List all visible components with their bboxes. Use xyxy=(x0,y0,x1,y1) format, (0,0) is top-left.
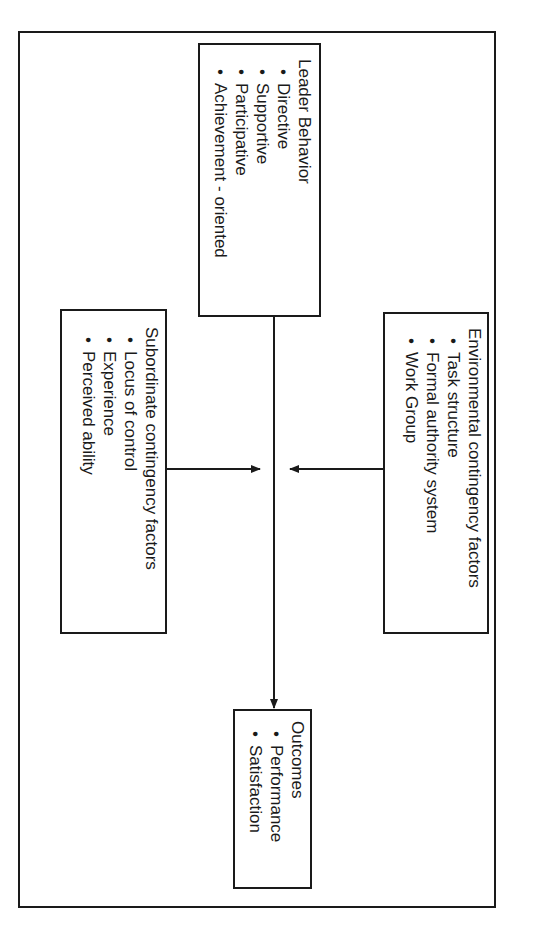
environmental-factors-box: Environmental contingency factors Task s… xyxy=(383,312,489,634)
leader-behavior-box: Leader Behavior Directive Supportive Par… xyxy=(198,43,321,317)
environmental-factors-title: Environmental contingency factors xyxy=(464,328,485,588)
subordinate-factors-content: Subordinate contingency factors Locus of… xyxy=(78,327,162,570)
list-item: Perceived ability xyxy=(78,337,99,570)
list-item: Participative xyxy=(231,69,252,258)
list-item: Supportive xyxy=(252,69,273,258)
subordinate-factors-box: Subordinate contingency factors Locus of… xyxy=(60,309,167,634)
list-item: Directive xyxy=(273,69,294,258)
leader-behavior-content: Leader Behavior Directive Supportive Par… xyxy=(210,59,315,258)
leader-behavior-title: Leader Behavior xyxy=(294,59,315,258)
list-item: Experience xyxy=(99,337,120,570)
outcomes-title: Outcomes xyxy=(287,721,308,842)
list-item: Task structure xyxy=(443,338,464,588)
outcomes-box: Outcomes Performance Satisfaction xyxy=(233,709,312,889)
subordinate-factors-title: Subordinate contingency factors xyxy=(141,327,162,570)
list-item: Achievement - oriented xyxy=(210,69,231,258)
list-item: Work Group xyxy=(401,338,422,588)
list-item: Locus of control xyxy=(120,337,141,570)
list-item: Satisfaction xyxy=(245,731,266,842)
outcomes-content: Outcomes Performance Satisfaction xyxy=(245,721,308,842)
environmental-factors-content: Environmental contingency factors Task s… xyxy=(401,328,485,588)
list-item: Performance xyxy=(266,731,287,842)
list-item: Formal authority system xyxy=(422,338,443,588)
